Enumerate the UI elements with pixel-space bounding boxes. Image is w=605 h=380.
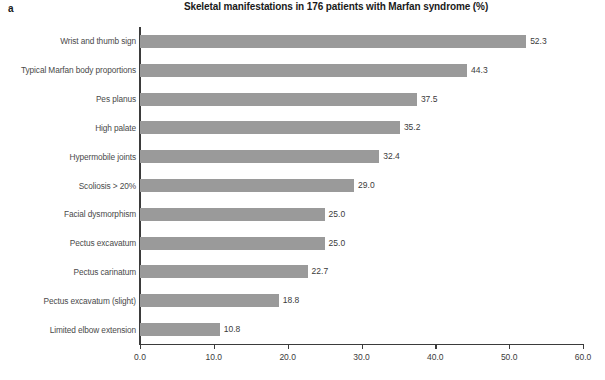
x-axis-tick-label: 40.0	[427, 352, 444, 362]
category-label: Pes planus	[4, 94, 136, 104]
bar	[140, 121, 400, 134]
category-label: Pectus excavatum (slight)	[4, 296, 136, 306]
x-axis-tick-label: 10.0	[206, 352, 223, 362]
x-axis-tick	[140, 344, 141, 349]
x-axis-tick-label: 0.0	[134, 352, 146, 362]
category-label: Typical Marfan body proportions	[4, 65, 136, 75]
bar	[140, 150, 379, 163]
category-label: Pectus excavatum	[4, 238, 136, 248]
bar	[140, 265, 308, 278]
bar-value-label: 29.0	[358, 180, 375, 190]
bar	[140, 323, 220, 336]
bar-row: 10.8	[140, 323, 583, 336]
bar-value-label: 22.7	[312, 266, 329, 276]
figure-panel: a Skeletal manifestations in 176 patient…	[0, 0, 605, 380]
bar-value-label: 37.5	[421, 94, 438, 104]
x-axis-tick-label: 60.0	[575, 352, 592, 362]
category-label: Pectus carinatum	[4, 267, 136, 277]
bar	[140, 237, 325, 250]
bar-value-label: 32.4	[383, 151, 400, 161]
bar	[140, 208, 325, 221]
bar	[140, 179, 354, 192]
bar-value-label: 44.3	[471, 65, 488, 75]
bar	[140, 93, 417, 106]
bar-row: 44.3	[140, 64, 583, 77]
bar-value-label: 10.8	[224, 324, 241, 334]
x-axis-tick-label: 30.0	[353, 352, 370, 362]
x-axis-tick	[362, 344, 363, 349]
bar-row: 37.5	[140, 93, 583, 106]
bar-value-label: 18.8	[283, 295, 300, 305]
x-axis-tick	[288, 344, 289, 349]
bar-row: 29.0	[140, 179, 583, 192]
bar-row: 22.7	[140, 265, 583, 278]
bar-value-label: 25.0	[329, 238, 346, 248]
x-axis-tick	[214, 344, 215, 349]
chart-title: Skeletal manifestations in 176 patients …	[126, 1, 546, 12]
bar	[140, 35, 526, 48]
x-axis-tick	[435, 344, 436, 349]
bar-value-label: 25.0	[329, 209, 346, 219]
bar-row: 32.4	[140, 150, 583, 163]
bar-value-label: 52.3	[530, 36, 547, 46]
bar-row: 25.0	[140, 237, 583, 250]
x-axis-tick	[583, 344, 584, 349]
category-label: Facial dysmorphism	[4, 209, 136, 219]
x-axis-tick-label: 50.0	[501, 352, 518, 362]
bar-row: 18.8	[140, 294, 583, 307]
category-axis-labels: Wrist and thumb signTypical Marfan body …	[0, 27, 136, 344]
bar-row: 25.0	[140, 208, 583, 221]
category-label: High palate	[4, 123, 136, 133]
category-label: Wrist and thumb sign	[4, 36, 136, 46]
panel-letter: a	[8, 3, 14, 14]
plot-area: 0.010.020.030.040.050.060.052.344.337.53…	[140, 27, 583, 344]
category-label: Hypermobile joints	[4, 152, 136, 162]
category-label: Scoliosis > 20%	[4, 181, 136, 191]
x-axis-tick-label: 20.0	[279, 352, 296, 362]
bar	[140, 64, 467, 77]
category-label: Limited elbow extension	[4, 325, 136, 335]
bar-row: 52.3	[140, 35, 583, 48]
bar-row: 35.2	[140, 121, 583, 134]
bar	[140, 294, 279, 307]
x-axis-tick	[509, 344, 510, 349]
bar-value-label: 35.2	[404, 122, 421, 132]
